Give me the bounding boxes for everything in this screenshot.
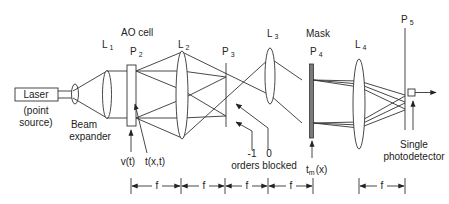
transmittance-label: t(x,t): [145, 156, 165, 167]
spacing-f-1: f: [156, 180, 159, 191]
ao-cell: AO cell P2 v(t) t(x,t): [121, 27, 165, 167]
l3-label: L3: [267, 28, 279, 40]
orders-blocked-label: orders blocked: [231, 160, 297, 171]
mask-p4: Mask P4 tm(x): [306, 28, 331, 176]
laser-label: Laser: [23, 89, 49, 100]
ao-cell-label: AO cell: [121, 27, 153, 38]
optical-system-diagram: Laser (point source) Beam expander L1 AO…: [0, 0, 449, 204]
l4-label: L4: [355, 39, 367, 51]
lens-l1: L1: [102, 39, 127, 119]
mask-plate-icon: [310, 64, 314, 138]
diffracted-rays: [136, 52, 302, 138]
laser-sublabel-2: source): [19, 117, 52, 128]
v-signal-label: v(t): [121, 156, 135, 167]
lens-l3: L3: [265, 28, 279, 104]
lens-l4: L4: [353, 39, 367, 149]
l1-label: L1: [102, 39, 114, 51]
t-arrow-icon: [135, 104, 147, 153]
spacing-f-4: f: [290, 180, 293, 191]
p4-label: P4: [310, 46, 323, 58]
spacing-f-2: f: [203, 180, 206, 191]
photodetector-icon: [408, 89, 415, 96]
minus-one-order-arrow-icon: [236, 122, 252, 150]
spacing-f-3: f: [246, 180, 249, 191]
l2-label: L2: [178, 39, 190, 51]
p5-label: P5: [401, 14, 414, 26]
beam-expander-label-2: expander: [69, 131, 111, 142]
ao-cell-box-icon: [127, 65, 136, 126]
laser-sublabel-1: (point: [23, 105, 48, 116]
beam-expander-label-1: Beam: [71, 119, 97, 130]
plane-p5: P5 Single photodetector: [383, 14, 445, 162]
p3-label: P3: [222, 46, 235, 58]
spacing-f-5: f: [381, 180, 384, 191]
order-minus-one: -1: [248, 148, 257, 159]
focal-spacing-marks: f f f f f: [131, 178, 405, 194]
mask-label: Mask: [306, 28, 331, 39]
mask-function-label: tm(x): [306, 164, 327, 176]
laser-source: Laser (point source): [15, 88, 73, 128]
detector-label-2: photodetector: [383, 151, 445, 162]
detector-label-1: Single: [400, 139, 428, 150]
p2-label: P2: [130, 46, 143, 58]
order-zero: 0: [266, 148, 272, 159]
